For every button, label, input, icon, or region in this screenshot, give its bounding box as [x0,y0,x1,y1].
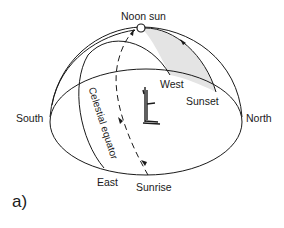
observer-figure [143,87,160,124]
label-noon-sun: Noon sun [121,11,166,22]
sun-path-morning [116,29,148,175]
label-sunset: Sunset [186,96,219,107]
label-south: South [16,113,43,124]
noon-sun-marker [137,24,145,32]
celestial-sphere-diagram: Noon sun West Sunset North South East Su… [0,0,284,228]
label-west: West [160,79,184,90]
panel-label: a) [12,193,27,210]
label-east: East [97,177,118,188]
label-sunrise: Sunrise [136,182,172,193]
label-north: North [246,113,272,124]
